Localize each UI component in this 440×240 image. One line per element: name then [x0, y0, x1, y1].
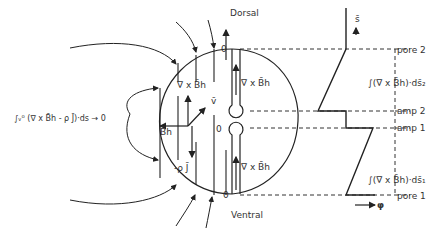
dorsal-label: Dorsal [230, 8, 259, 18]
minus-rho-j-label: -ρ J̄ [174, 163, 188, 173]
pore1-label: pore 1 [397, 191, 426, 201]
left-integral-label: ∫ᵥ⁰ (∇ x B̄h - ρ J̄)·ds → 0 [14, 114, 106, 124]
ventral-label: Ventral [231, 210, 263, 220]
diagram: Dorsal Ventral 0 0 0 ∇ x B̄h ∇ x B̄h ∇ x… [0, 0, 440, 240]
curl-upper-left-label: ∇ x B̄h [177, 80, 206, 90]
zero-mid-label: 0 [216, 124, 222, 134]
curl-lower-right-label: ∇ x B̄h [241, 162, 270, 172]
v-bar-label: v̄ [211, 96, 216, 106]
s-axis-label: s̄ [355, 14, 360, 24]
integral-ds1-label: ∫(∇ x B̄h)·ds̄₁ [368, 175, 426, 185]
pore2-label: pore 2 [397, 45, 426, 55]
zero-top-label: 0 [221, 44, 227, 54]
curl-upper-right-label: ∇ x B̄h [241, 78, 270, 88]
zero-bottom-label: 0 [223, 190, 229, 200]
b-h-label: B̄h [160, 127, 172, 137]
amp1-label: amp 1 [397, 123, 426, 133]
amp2-label: amp 2 [397, 106, 426, 116]
integral-ds2-label: ∫(∇ x B̄h)·ds̄₂ [368, 78, 426, 88]
phi-axis-label: φ [377, 200, 384, 210]
